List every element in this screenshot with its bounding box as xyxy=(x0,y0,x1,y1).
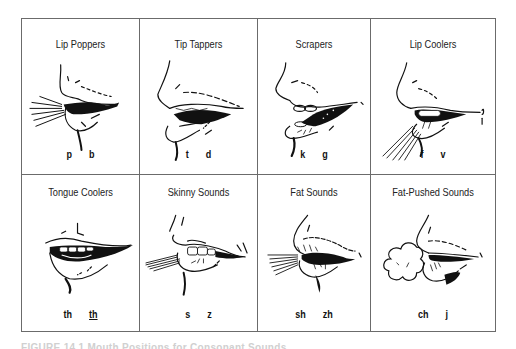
sound-label: f xyxy=(420,149,423,160)
fat-pushed-sounds-mouth-icon xyxy=(371,175,495,331)
sound-pair: s z xyxy=(146,309,251,320)
sound-label: b xyxy=(89,149,94,160)
sound-label: s xyxy=(185,309,190,320)
sound-label: j xyxy=(446,309,449,320)
panel-fat-pushed-sounds: Fat-Pushed Sounds ch j xyxy=(371,175,495,331)
sound-label: t xyxy=(186,149,189,160)
sound-label: v xyxy=(441,149,446,160)
figure-caption: FIGURE 14.1 Mouth Positions for Consonan… xyxy=(21,342,501,349)
panel-lip-coolers: Lip Coolers xyxy=(371,19,495,175)
sound-pair: t d xyxy=(146,149,251,160)
sound-pair: k g xyxy=(264,149,365,160)
fat-sounds-mouth-icon xyxy=(258,175,370,331)
sound-label: z xyxy=(207,309,212,320)
panel-lip-poppers: Lip Poppers p xyxy=(22,19,140,175)
panel-tip-tappers: Tip Tappers t d xyxy=(140,19,258,175)
sound-pair: th th xyxy=(28,309,133,320)
panel-skinny-sounds: Skinny Sounds xyxy=(140,175,258,331)
mouth-positions-grid: Lip Poppers p xyxy=(21,18,496,332)
sound-label: sh xyxy=(295,309,306,320)
panel-tongue-coolers: Tongue Coolers th th xyxy=(22,175,140,331)
sound-label: g xyxy=(322,149,327,160)
panel-fat-sounds: Fat Sounds sh xyxy=(258,175,371,331)
sound-pair: sh zh xyxy=(264,309,365,320)
skinny-sounds-mouth-icon xyxy=(140,175,257,331)
tongue-coolers-mouth-icon xyxy=(22,175,139,331)
sound-label: th xyxy=(63,309,72,320)
sound-label: zh xyxy=(323,309,333,320)
sound-pair: f v xyxy=(377,149,489,160)
sound-label: ch xyxy=(418,309,429,320)
sound-pair: ch j xyxy=(377,309,489,320)
sound-label-voiced: th xyxy=(89,309,98,320)
sound-pair: p b xyxy=(28,149,133,160)
sound-label: k xyxy=(300,149,305,160)
panel-scrapers: Scrapers k g xyxy=(258,19,371,175)
sound-label: d xyxy=(206,149,211,160)
sound-label: p xyxy=(66,149,71,160)
